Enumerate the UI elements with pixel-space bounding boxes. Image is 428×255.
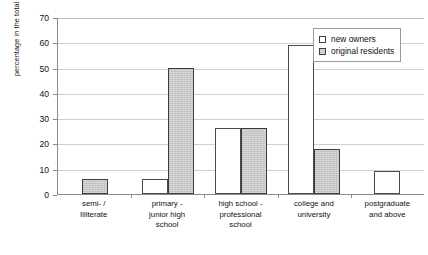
bar-new-owners-college-university bbox=[288, 45, 314, 194]
y-tick-mark-0 bbox=[53, 195, 57, 196]
bar-original-residents-high-school-professional bbox=[241, 128, 267, 194]
y-tick-label-20: 20 bbox=[39, 140, 49, 149]
x-tick-label-college-university: college anduniversity bbox=[277, 199, 350, 231]
y-tick-label-60: 60 bbox=[39, 39, 49, 48]
legend-label-new-owners: new owners bbox=[331, 33, 376, 45]
y-axis-tick-labels: 70 60 50 40 30 20 10 0 bbox=[0, 0, 55, 255]
y-tick-label-70: 70 bbox=[39, 14, 49, 23]
legend-item-original-residents: original residents bbox=[319, 45, 394, 57]
gray-square-icon bbox=[319, 48, 326, 55]
bar-group-primary-junior-high bbox=[131, 18, 204, 194]
bar-new-owners-high-school-professional bbox=[215, 128, 241, 194]
y-tick-label-0: 0 bbox=[44, 191, 49, 200]
legend-item-new-owners: new owners bbox=[319, 33, 394, 45]
white-square-icon bbox=[319, 36, 326, 43]
bar-new-owners-primary-junior-high bbox=[142, 179, 168, 194]
plot-area: new owners original residents bbox=[57, 18, 424, 195]
bar-original-residents-college-university bbox=[314, 149, 340, 195]
x-tick-label-postgraduate-and-above: postgraduateand above bbox=[351, 199, 424, 231]
chart-legend: new owners original residents bbox=[313, 28, 401, 62]
y-tick-label-40: 40 bbox=[39, 90, 49, 99]
x-tick-label-high-school-professional: high school -professionalschool bbox=[204, 199, 277, 231]
bar-group-semi-illiterate bbox=[58, 18, 131, 194]
x-axis-tick-labels: semi- /Illiterate primary -junior highsc… bbox=[57, 199, 424, 231]
y-tick-label-50: 50 bbox=[39, 64, 49, 73]
bar-original-residents-primary-junior-high bbox=[168, 68, 194, 194]
bar-original-residents-semi-illiterate bbox=[82, 179, 108, 194]
bar-group-high-school-professional bbox=[204, 18, 277, 194]
bar-chart: percentage in the total residents 70 60 … bbox=[0, 0, 428, 255]
x-tick-label-semi-illiterate: semi- /Illiterate bbox=[57, 199, 130, 231]
x-tick-label-primary-junior-high: primary -junior highschool bbox=[130, 199, 203, 231]
legend-label-original-residents: original residents bbox=[331, 45, 394, 57]
bar-new-owners-postgraduate-and-above bbox=[374, 171, 400, 194]
y-tick-label-10: 10 bbox=[39, 165, 49, 174]
y-tick-label-30: 30 bbox=[39, 115, 49, 124]
